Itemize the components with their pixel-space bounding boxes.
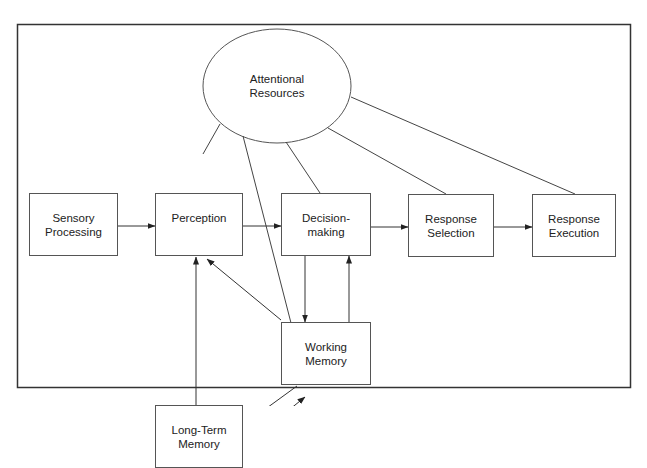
node-working-memory: Working Memory (281, 322, 371, 385)
response-selection-line2: Selection (425, 226, 477, 240)
node-sensory-processing: Sensory Processing (29, 193, 118, 256)
node-response-selection: Response Selection (408, 194, 494, 257)
node-long-term-memory: Long-Term Memory (155, 405, 243, 468)
edge-attention-decision (286, 142, 320, 193)
working-memory-line1: Working (305, 340, 347, 354)
perception-line1: Perception (172, 211, 227, 225)
attentional-resources-line2: Resources (227, 86, 327, 100)
sensory-processing-line1: Sensory (45, 211, 102, 225)
attentional-resources-line1: Attentional (227, 72, 327, 86)
response-execution-line1: Response (548, 212, 600, 226)
edge-working-memory-ltm (249, 386, 297, 406)
long-term-memory-line1: Long-Term (172, 423, 227, 437)
edge-working-memory-perception (207, 259, 281, 320)
response-execution-line2: Execution (548, 226, 600, 240)
decision-making-line2: making (302, 225, 350, 239)
node-response-execution: Response Execution (532, 194, 616, 257)
node-perception: Perception (155, 193, 243, 256)
response-selection-line1: Response (425, 212, 477, 226)
edge-attention-response-execution (351, 97, 575, 194)
sensory-processing-line2: Processing (45, 225, 102, 239)
decision-making-line1: Decision- (302, 211, 350, 225)
edge-ltm-working-memory (243, 397, 305, 406)
attentional-resources-label: Attentional Resources (227, 72, 327, 100)
node-decision-making: Decision- making (281, 193, 371, 256)
long-term-memory-line2: Memory (172, 437, 227, 451)
edge-attention-response-selection (328, 128, 446, 194)
working-memory-line2: Memory (305, 354, 347, 368)
edge-attention-perception (203, 124, 220, 154)
